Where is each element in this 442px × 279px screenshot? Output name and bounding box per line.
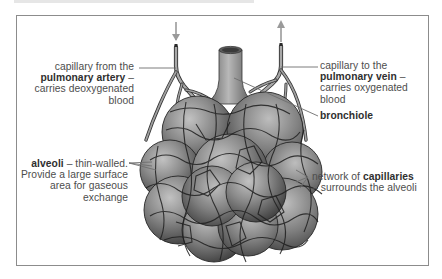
capillaries-label-line2: – surrounds the alveoli — [312, 182, 428, 193]
alveoli-label-line2: Provide a large surface — [20, 169, 128, 180]
artery-label-line4: blood — [18, 95, 134, 106]
bronchiole-label-bold: bronchiole — [320, 110, 373, 121]
alveoli-label-line1: – thin-walled. — [64, 158, 128, 169]
pulmonary-artery-label: capillary from the pulmonary artery – ca… — [18, 61, 134, 106]
artery-label-line1: capillary from the — [18, 61, 134, 72]
alveoli-illustration — [0, 0, 442, 279]
vein-label-dash: – — [397, 71, 406, 82]
alveoli-label: alveoli – thin-walled. Provide a large s… — [20, 158, 128, 203]
capillaries-label-bold: capillaries — [363, 171, 414, 182]
alveoli-label-bold: alveoli — [31, 158, 63, 169]
bronchiole-label: bronchiole — [320, 110, 420, 121]
vein-label-bold: pulmonary vein — [320, 71, 397, 82]
down-arrow-icon — [172, 22, 180, 47]
artery-label-bold: pulmonary artery — [40, 72, 125, 83]
alveoli-label-line4: exchange — [20, 192, 128, 203]
alveoli-cluster — [140, 92, 322, 262]
up-arrow-icon — [277, 20, 285, 46]
vein-label-line1: capillary to the — [320, 60, 428, 71]
artery-label-dash: – — [125, 72, 134, 83]
vein-label-line3: carries oxygenated — [320, 82, 428, 93]
artery-label-line3: carries deoxygenated — [18, 83, 134, 94]
pulmonary-vein-label: capillary to the pulmonary vein – carrie… — [320, 60, 428, 105]
vein-label-line4: blood — [320, 94, 428, 105]
alveoli-label-line3: area for gaseous — [20, 180, 128, 191]
capillaries-label-prefix: network of — [312, 171, 363, 182]
capillaries-label: network of capillaries – surrounds the a… — [312, 171, 428, 193]
